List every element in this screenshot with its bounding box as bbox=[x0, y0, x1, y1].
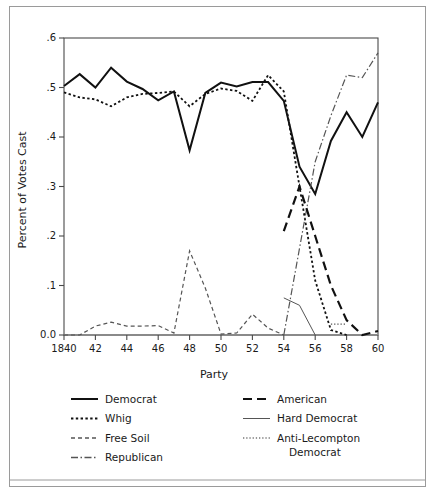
series-line-whig bbox=[64, 75, 347, 335]
y-tick-label: .5 bbox=[46, 82, 56, 93]
series-line-republican bbox=[284, 53, 378, 335]
series-line-democrat bbox=[64, 68, 378, 194]
legend-label[interactable]: American bbox=[277, 393, 327, 405]
x-tick-label: 46 bbox=[152, 343, 165, 354]
x-tick-label: 60 bbox=[372, 343, 385, 354]
legend-label-continuation: Democrat bbox=[289, 446, 341, 458]
x-tick-label: 1840 bbox=[51, 343, 76, 354]
x-axis-ticks: 184042444648505254565860 bbox=[51, 335, 384, 354]
series-line-american bbox=[284, 187, 378, 336]
legend-label[interactable]: Free Soil bbox=[105, 432, 150, 444]
legend-label[interactable]: Democrat bbox=[105, 393, 157, 405]
y-tick-label: .3 bbox=[46, 181, 56, 192]
y-axis-title: Percent of Votes Cast bbox=[16, 131, 29, 249]
x-axis-title: Party bbox=[200, 368, 229, 381]
x-tick-label: 52 bbox=[246, 343, 259, 354]
x-tick-label: 54 bbox=[277, 343, 290, 354]
legend-label[interactable]: Whig bbox=[105, 412, 132, 424]
y-tick-label: .2 bbox=[46, 230, 56, 241]
legend-label[interactable]: Anti-Lecompton bbox=[277, 432, 360, 444]
x-tick-label: 42 bbox=[89, 343, 102, 354]
legend: DemocratWhigFree SoilRepublicanAmericanH… bbox=[10, 393, 425, 480]
line-chart: 0.0.1.2.3.4.5.6 184042444648505254565860… bbox=[0, 0, 435, 494]
x-tick-label: 50 bbox=[215, 343, 228, 354]
y-tick-label: .1 bbox=[46, 280, 56, 291]
x-tick-label: 48 bbox=[183, 343, 196, 354]
series-line-hard-democrat bbox=[284, 298, 315, 335]
figure-container: 0.0.1.2.3.4.5.6 184042444648505254565860… bbox=[0, 0, 435, 494]
legend-label[interactable]: Republican bbox=[105, 451, 163, 463]
x-tick-label: 58 bbox=[340, 343, 353, 354]
series-line-free-soil bbox=[64, 251, 284, 335]
y-tick-label: .6 bbox=[46, 32, 56, 43]
y-tick-label: .4 bbox=[46, 131, 56, 142]
legend-label[interactable]: Hard Democrat bbox=[277, 412, 357, 424]
y-tick-label: 0.0 bbox=[40, 329, 56, 340]
x-tick-label: 44 bbox=[120, 343, 133, 354]
x-tick-label: 56 bbox=[309, 343, 322, 354]
y-axis-ticks: 0.0.1.2.3.4.5.6 bbox=[40, 32, 64, 340]
data-series-group bbox=[64, 53, 378, 335]
